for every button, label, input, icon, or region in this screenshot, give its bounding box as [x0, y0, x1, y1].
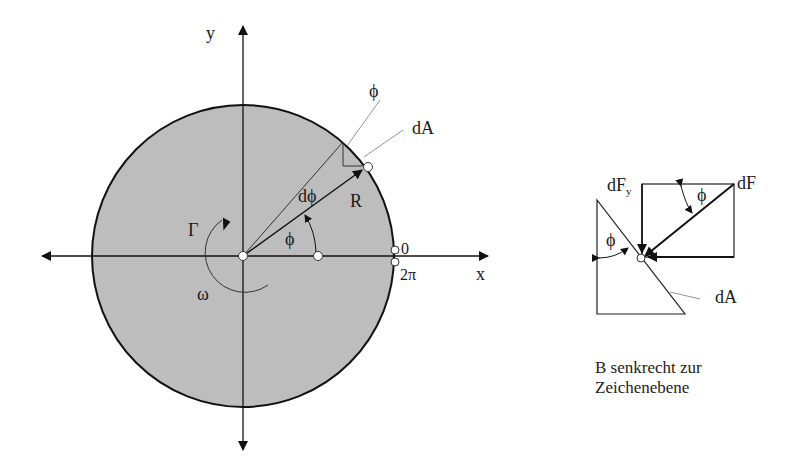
dA-point: [364, 163, 373, 172]
phi-upper-arc: [681, 186, 692, 213]
dA-leader-line: [364, 130, 403, 157]
note-line-1: B senkrecht zur: [595, 358, 702, 378]
note-line-2: Zeichenebene: [595, 378, 702, 398]
origin-point: [239, 252, 248, 261]
dphi-label: dϕ: [298, 186, 316, 206]
y-axis-label: y: [206, 23, 215, 43]
phi-top-label: ϕ: [369, 81, 378, 101]
dA-point-side: [637, 254, 645, 262]
magnetic-field-note: B senkrecht zur Zeichenebene: [595, 358, 702, 398]
dF-label: dF: [737, 173, 756, 193]
omega-label: ω: [197, 284, 209, 304]
phi-reference-point: [314, 252, 323, 261]
dF-vector: [645, 184, 734, 256]
dA-side-leader: [670, 292, 700, 299]
dA-side-label: dA: [715, 287, 737, 307]
force-diagram: dFy dF ϕ ϕ dA: [597, 173, 756, 314]
phi-left-label: ϕ: [606, 230, 615, 250]
gamma-label: Γ: [188, 220, 198, 240]
x-axis-label: x: [476, 264, 485, 284]
zero-point: [391, 246, 399, 254]
dFy-label: dFy: [607, 175, 632, 197]
two-pi-point: [391, 258, 399, 266]
phi-angle-label: ϕ: [285, 229, 294, 249]
zero-label: 0: [401, 240, 409, 257]
two-pi-label: 2π: [400, 266, 416, 283]
phi-leader-line: [347, 100, 380, 146]
dA-top-label: dA: [412, 118, 434, 138]
phi-upper-label: ϕ: [697, 185, 706, 205]
R-label: R: [350, 191, 362, 211]
